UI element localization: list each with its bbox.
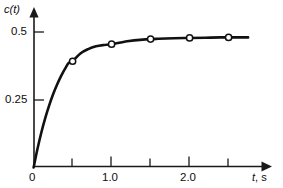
y-tick-label-0-25: 0.25 — [5, 94, 27, 105]
x-tick-label-2-0: 2.0 — [180, 172, 196, 183]
chart-container: c(t) t, s 0.5 0.25 0 1.0 2.0 — [0, 0, 283, 188]
x-axis-title-unit: , s — [255, 171, 267, 183]
x-tick-label-1-0: 1.0 — [102, 172, 118, 183]
chart-plot-area — [0, 0, 283, 188]
data-curve — [34, 37, 249, 167]
y-tick-label-0-5: 0.5 — [11, 26, 27, 37]
y-axis-title: c(t) — [4, 4, 20, 15]
data-point-marker — [226, 34, 232, 40]
data-point-marker — [109, 41, 115, 47]
data-point-marker — [187, 35, 193, 41]
y-axis-arrow-icon — [29, 7, 38, 18]
x-tick-label-0: 0 — [29, 172, 35, 183]
x-axis-title: t, s — [252, 172, 267, 183]
y-axis-title-text: c(t) — [4, 3, 20, 15]
data-point-marker — [148, 36, 154, 42]
data-point-marker — [70, 58, 76, 64]
x-axis-arrow-icon — [262, 162, 273, 172]
